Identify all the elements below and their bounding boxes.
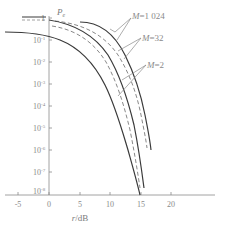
y-tick-labels: 1 10-1 10-2 10-3 10-4 10-5 10-6 10-7 10-…: [33, 14, 46, 196]
svg-text:10-4: 10-4: [33, 102, 46, 111]
svg-text:-5: -5: [15, 200, 22, 209]
annotation-pointers: [110, 18, 146, 96]
svg-text:1: 1: [41, 14, 45, 23]
svg-text:10-7: 10-7: [33, 168, 46, 177]
label-m2: M=2: [146, 60, 164, 70]
x-axis-title: r/dB: [72, 213, 89, 223]
svg-text:10-2: 10-2: [33, 58, 46, 67]
svg-text:10-6: 10-6: [33, 146, 46, 155]
svg-text:10-5: 10-5: [33, 124, 46, 133]
curve-m2-solid: [5, 32, 140, 195]
curve-m32-solid: [49, 20, 144, 188]
svg-text:5: 5: [78, 200, 82, 209]
svg-text:20: 20: [167, 200, 175, 209]
x-tick-labels: -5 0 5 10 15 20: [15, 200, 175, 209]
y-axis-title: Pe: [56, 7, 66, 18]
label-m32: M=32: [141, 33, 164, 43]
svg-text:15: 15: [137, 200, 145, 209]
svg-text:10-1: 10-1: [33, 36, 46, 45]
chart: -5 0 5 10 15 20 r/dB 1 10-1 10-2 10-3 10…: [0, 0, 226, 229]
svg-text:10-3: 10-3: [33, 80, 46, 89]
label-m1024: MM=1 024=1 024: [131, 11, 165, 21]
svg-text:10: 10: [106, 200, 114, 209]
svg-text:0: 0: [47, 200, 51, 209]
curve-m32-dashed: [52, 26, 140, 188]
curve-m1024-dashed: [55, 21, 147, 148]
y-ticks: [49, 18, 52, 172]
